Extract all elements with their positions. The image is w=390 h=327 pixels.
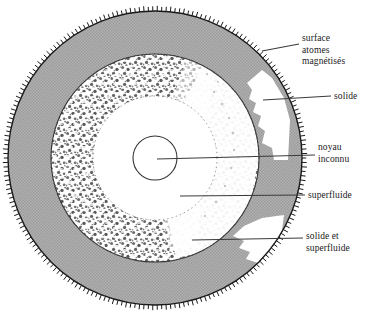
label-noyau-inconnu: noyau inconnu (318, 142, 349, 165)
leader-surface (262, 44, 299, 51)
noyau-core-circle (133, 136, 177, 180)
label-solide: solide (334, 91, 357, 103)
label-superfluide: superfluide (308, 190, 352, 202)
label-surface-atomes-magnetises: surface atomes magnétisés (302, 33, 345, 68)
label-solide-et-superfluide: solide et superfluide (306, 231, 350, 254)
